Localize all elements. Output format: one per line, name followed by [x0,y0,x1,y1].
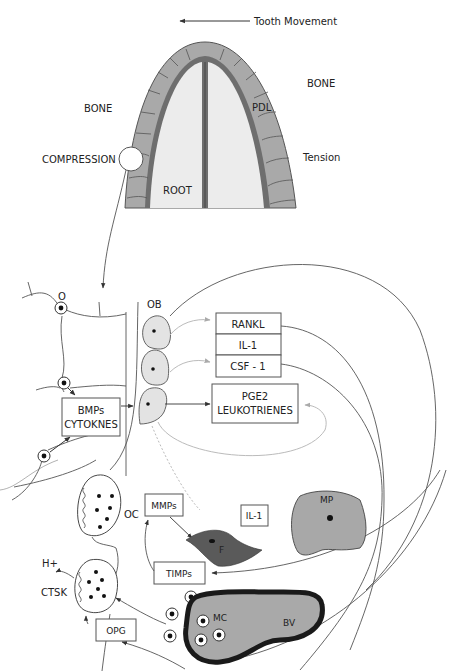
bone-left-label: BONE [84,103,112,114]
csf1-label: CSF - 1 [230,361,265,372]
compression-label: COMPRESSION [42,154,116,165]
mast-cell-label: MC [213,613,227,623]
bv-to-opg-arrow [122,642,185,669]
bmps-label: BMPs [78,405,105,416]
pge2-leukotrienes-box [212,384,298,423]
il1-label: IL-1 [246,511,262,521]
pge2-label: PGE2 [242,391,268,402]
macrophage-label: MP [320,495,334,505]
osteoclast-1 [78,475,121,536]
osteocyte-3 [38,437,70,462]
osteoblast-3 [139,388,167,424]
timps-label: TIMPs [165,569,192,579]
tension-label: Tension [302,152,340,163]
osteoclast-label: OC [124,509,139,520]
tooth-movement-label: Tooth Movement [253,16,337,27]
bone-matrix [0,282,138,500]
h-plus-arrow [56,571,74,578]
macrophage-nucleus [327,515,333,521]
h-plus-label: H+ [42,558,58,569]
opg-to-osteoclast-arrow [86,616,88,624]
diagram-canvas: Tooth Movement [0,0,456,671]
pdl-label: PDL [252,102,272,113]
osteocyte-label: O [58,291,66,302]
osteoblast-1 [143,316,171,349]
osteocyte-2 [58,377,75,395]
il1-stack-label: IL-1 [239,340,257,351]
opg-label: OPG [106,626,126,636]
root-label: ROOT [163,185,193,196]
cytokines-label: CYTOKNES [64,419,118,430]
blood-vessel-label: BV [283,618,296,628]
zoom-arrow [103,170,126,288]
bmps-cytokines-box [62,398,120,436]
timps-to-mmps-arrow [145,520,154,571]
osteoblast-label: OB [147,299,162,310]
osteoclast-2 [75,559,118,612]
bone-right-label: BONE [307,78,335,89]
fibroblast-label: F [219,545,224,555]
compression-zone-circle [119,147,143,171]
rankl-label: RANKL [232,319,265,330]
ob-rankl-arrow [170,320,210,335]
blood-vessel [186,592,323,662]
ctsk-label: CTSK [41,587,67,598]
mmps-label: MMPs [151,501,177,511]
osteoblast-2 [141,350,168,385]
mmps-to-fibroblast-arrow [170,517,192,538]
cellular-figure: O OB BMPs CYTOKNES RANK [0,264,446,671]
tooth-figure: Tooth Movement [42,16,340,288]
ob-csf1-arrow [170,360,210,372]
fibroblast-nucleus [209,539,215,543]
leukotrienes-label: LEUKOTRIENES [217,405,293,416]
